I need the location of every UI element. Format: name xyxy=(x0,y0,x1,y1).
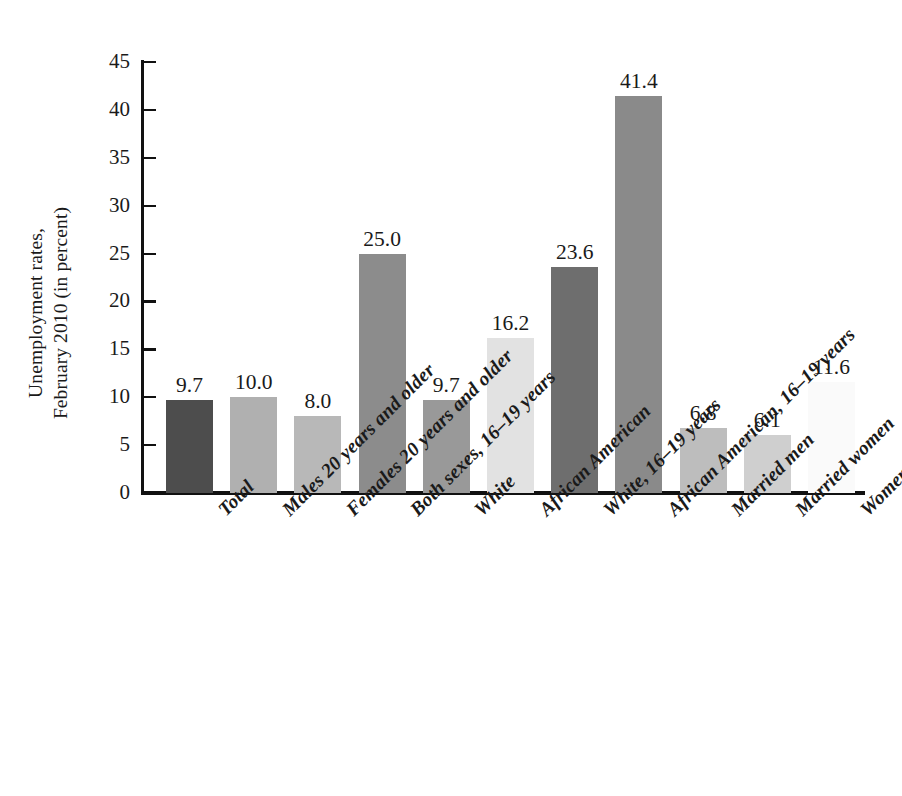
bar-group: 9.7 xyxy=(166,360,213,493)
bar xyxy=(166,400,213,493)
bar-value-label: 9.7 xyxy=(166,374,213,396)
unemployment-bar-chart: Unemployment rates, February 2010 (in pe… xyxy=(0,0,902,796)
bar-value-label: 16.2 xyxy=(487,312,534,334)
bar-value-label: 25.0 xyxy=(359,228,406,250)
bar-value-label: 41.4 xyxy=(615,70,662,92)
bar-group: 10.0 xyxy=(230,357,277,493)
bar xyxy=(230,397,277,493)
bar-value-label: 23.6 xyxy=(551,241,598,263)
bar-value-label: 10.0 xyxy=(230,371,277,393)
bar-value-label: 8.0 xyxy=(294,390,341,412)
